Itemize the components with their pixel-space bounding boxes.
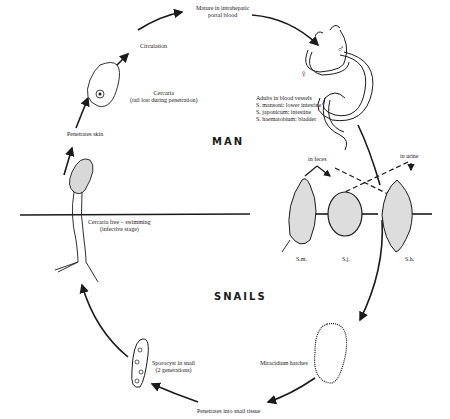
label-penetrates-skin: Penetrates skin xyxy=(67,131,103,138)
label-adults: Adults in blood vessels S. mansoni: lowe… xyxy=(256,95,321,123)
divider-line xyxy=(20,214,250,215)
zone-snails: SNAILS xyxy=(214,291,267,302)
label-in-feces: in feces xyxy=(308,156,327,163)
label-cercaria-free: Cercaria free – swimming (infective stag… xyxy=(88,219,150,233)
egg-s-mansoni-icon xyxy=(282,179,316,252)
male-symbol: ♂ xyxy=(337,45,345,52)
arrow-cercariafree-to-skin xyxy=(64,148,72,175)
zone-man: MAN xyxy=(212,136,244,147)
miracidium-icon xyxy=(315,324,347,383)
label-egg-sh: S.h. xyxy=(405,256,414,263)
arrow-sporocyst-to-cercariafree xyxy=(82,285,128,357)
label-egg-sm: S.m. xyxy=(296,256,307,263)
cercaria-icon xyxy=(87,63,119,107)
label-penetrates-snail: Penetrates into snail tissue xyxy=(197,408,261,415)
egg-s-japonicum-icon xyxy=(328,192,362,236)
label-sporocyst: Sporocyst in snail (2 generations) xyxy=(152,360,195,374)
label-mature: Mature in intrahepatic portal blood xyxy=(196,5,249,19)
female-symbol: ♀ xyxy=(300,70,308,77)
label-cercaria: Cercaria (tail lost during penetration) xyxy=(130,90,197,104)
arrow-eggs-to-miracidium xyxy=(360,220,382,320)
arrow-circulation-to-mature xyxy=(138,12,182,30)
arrow-skin-to-cercaria xyxy=(76,98,88,128)
egg-s-haematobium-icon xyxy=(382,180,412,252)
arrow-mature-to-adults xyxy=(252,15,318,45)
arrow-adults-to-eggs xyxy=(358,125,380,185)
arrow-snail-to-sporocyst xyxy=(152,384,198,402)
label-miracidium: Miracidium hatches xyxy=(260,360,308,367)
label-egg-sj: S.j. xyxy=(342,256,350,263)
label-circulation: Circulation xyxy=(140,43,167,50)
arrow-miracidium-to-snail xyxy=(268,378,315,402)
life-cycle-diagram xyxy=(0,0,450,419)
label-in-urine: in urine xyxy=(400,153,419,160)
sporocyst-icon xyxy=(132,339,149,387)
